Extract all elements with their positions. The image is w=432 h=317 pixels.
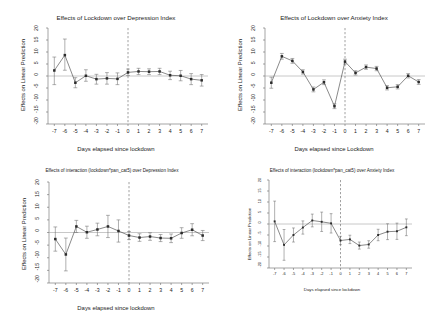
y-tick: 20 <box>257 177 262 182</box>
chart-title: Effects of interaction (lockdown*pan_cat… <box>270 168 395 173</box>
y-tick: -20 <box>33 117 39 125</box>
x-axis-ticks: -7-6-5-4-3-2-101234567 <box>273 271 408 276</box>
data-point-marker <box>138 236 141 239</box>
y-axis-label: Effects on Linear Prediction <box>237 39 243 111</box>
data-point-marker <box>137 70 140 73</box>
data-point-marker <box>321 221 323 223</box>
x-tick-label: 1 <box>137 128 140 134</box>
y-tick: 15 <box>257 188 262 192</box>
y-axis-ticks: 20 15 10 5 0 -5 -10 -15 -20 <box>34 179 40 283</box>
x-tick-label: -5 <box>290 128 295 134</box>
y-tick: -15 <box>250 105 256 113</box>
x-tick-label: 5 <box>396 128 399 134</box>
x-tick-label: 3 <box>159 287 162 293</box>
x-tick-label: -7 <box>269 128 274 134</box>
y-tick: -10 <box>33 94 39 102</box>
chart-panel-bottom-left: Effects of interaction (lockdown*pan_cat… <box>0 158 216 317</box>
y-tick: 5 <box>34 217 40 220</box>
x-tick-label: 1 <box>354 128 357 134</box>
x-tick-label: 6 <box>396 271 398 276</box>
x-tick-label: 5 <box>386 271 388 276</box>
data-point-marker <box>201 234 204 237</box>
x-tick-label: 2 <box>358 271 360 276</box>
y-tick: 0 <box>33 73 39 76</box>
data-point-marker <box>375 67 378 70</box>
y-tick: -5 <box>257 231 262 234</box>
plot-area <box>267 180 412 270</box>
x-tick-label: 3 <box>158 128 161 134</box>
data-point-marker <box>396 86 399 89</box>
x-tick-label: -6 <box>282 271 285 276</box>
data-point-marker <box>330 222 332 224</box>
x-tick-label: -4 <box>84 128 89 134</box>
y-tick: -20 <box>257 261 262 267</box>
data-point-marker <box>283 244 285 246</box>
x-tick-label: 6 <box>190 128 193 134</box>
data-point-marker <box>159 237 162 240</box>
x-tick-label: -6 <box>280 128 285 134</box>
data-point-marker <box>344 60 347 63</box>
data-point-marker <box>387 231 389 233</box>
chart-svg-top-left: Effects of Lockdown over Depression Inde… <box>0 0 216 158</box>
x-tick-label: 3 <box>375 128 378 134</box>
x-tick-label: 0 <box>344 128 347 134</box>
x-tick-label: -5 <box>73 128 78 134</box>
x-tick-label: -2 <box>106 287 111 293</box>
data-point-marker <box>170 237 173 240</box>
data-point-marker <box>158 70 161 73</box>
data-point-marker <box>106 77 109 80</box>
y-tick: 0 <box>34 229 40 232</box>
y-tick: -15 <box>257 251 262 257</box>
x-tick-label: 0 <box>127 128 130 134</box>
data-point-marker <box>340 240 342 242</box>
data-point-marker <box>396 230 398 232</box>
x-tick-label: 4 <box>377 271 380 276</box>
x-axis-label: Days elapsed since lockdown <box>304 287 361 292</box>
data-point-marker <box>74 81 77 84</box>
data-point-marker <box>169 74 172 77</box>
x-tick-label: -2 <box>320 271 323 276</box>
data-point-marker <box>200 79 203 82</box>
x-tick-label: -2 <box>105 128 110 134</box>
x-tick-label: -6 <box>64 287 69 293</box>
y-tick: 10 <box>250 48 256 54</box>
x-axis-label: Days elapsed since lockdown <box>77 305 154 311</box>
x-axis-ticks: -7-6-5-4-3-2-101234567 <box>52 128 203 134</box>
y-tick: -10 <box>257 240 262 246</box>
data-point-marker <box>365 66 368 69</box>
y-tick: -20 <box>250 117 256 125</box>
x-tick-label: -3 <box>94 128 99 134</box>
data-point-marker <box>312 88 315 91</box>
data-point-marker <box>354 72 357 75</box>
data-point-marker <box>191 228 194 231</box>
data-point-marker <box>293 234 295 236</box>
y-tick: 10 <box>33 48 39 54</box>
data-point-marker <box>358 245 360 247</box>
data-point-marker <box>96 228 99 231</box>
data-point-marker <box>302 71 305 74</box>
data-point-marker <box>107 225 110 228</box>
x-tick-label: -5 <box>74 287 79 293</box>
x-tick-label: -4 <box>301 271 305 276</box>
x-tick-label: 3 <box>368 271 370 276</box>
y-axis-ticks: 20 15 10 5 0 -5 -10 -15 -20 <box>257 177 262 268</box>
x-tick-label: 6 <box>407 128 410 134</box>
y-tick: 15 <box>33 37 39 43</box>
x-tick-label: -1 <box>116 287 121 293</box>
y-tick: 0 <box>250 73 256 76</box>
data-point-marker <box>274 220 276 222</box>
data-point-marker <box>127 71 130 74</box>
y-axis-label: Effects on Linear Prediction <box>21 198 27 270</box>
x-tick-label: 7 <box>405 271 407 276</box>
data-point-marker <box>149 235 152 238</box>
figure-grid: Effects of Lockdown over Depression Inde… <box>0 0 432 317</box>
plot-area <box>46 28 208 126</box>
y-tick: 5 <box>33 61 39 64</box>
y-tick: -5 <box>250 84 256 89</box>
x-tick-label: 2 <box>148 128 151 134</box>
x-tick-label: 4 <box>169 128 172 134</box>
data-point-marker <box>407 75 410 78</box>
data-point-marker <box>333 105 336 108</box>
data-point-marker <box>405 226 407 228</box>
x-tick-label: 7 <box>417 128 420 134</box>
